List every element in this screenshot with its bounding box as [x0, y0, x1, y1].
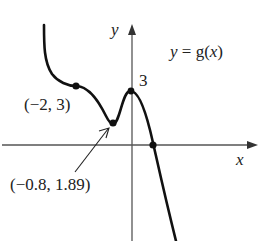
point-y-intercept: [128, 88, 135, 95]
point-a-label: (−2, 3): [24, 96, 70, 113]
function-curve: [44, 25, 176, 241]
y-intercept-label: 3: [139, 72, 148, 89]
point-minus2-3: [72, 82, 79, 89]
point-x-intercept: [149, 141, 156, 148]
graph-figure: y y = g(x) 3 (−2, 3) (−0.8, 1.89) x: [0, 0, 258, 241]
function-label-y: y: [170, 42, 178, 61]
point-local-min: [109, 119, 116, 126]
annotation-arrow: [75, 129, 108, 172]
function-label: y = g(x): [170, 43, 223, 60]
x-axis-label: x: [236, 151, 244, 168]
function-label-x: x: [210, 42, 218, 61]
graph-svg: [0, 0, 258, 241]
y-axis-arrow-icon: [128, 24, 136, 35]
x-axis-arrow-icon: [247, 141, 258, 149]
y-axis-label: y: [111, 21, 119, 38]
point-b-label: (−0.8, 1.89): [10, 176, 90, 193]
